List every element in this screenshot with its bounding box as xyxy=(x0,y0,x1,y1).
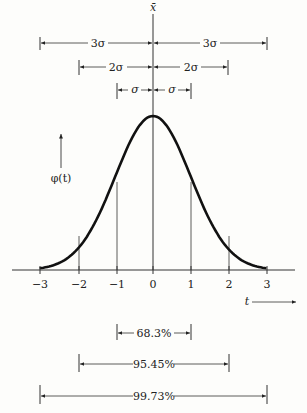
normal-distribution-figure: x̄ 3σ 3σ 2σ 2σ σ σ φ(t) xyxy=(0,0,307,413)
chart-canvas: x̄ 3σ 3σ 2σ 2σ σ σ φ(t) xyxy=(0,0,307,413)
svg-text:2σ: 2σ xyxy=(109,61,124,74)
svg-text:3σ: 3σ xyxy=(91,37,106,50)
svg-text:0: 0 xyxy=(150,278,157,291)
svg-text:σ: σ xyxy=(168,83,176,96)
svg-text:1: 1 xyxy=(188,278,195,291)
svg-text:−1: −1 xyxy=(109,278,125,291)
one-sigma-span: σ σ xyxy=(117,83,191,99)
svg-text:68.3%: 68.3% xyxy=(137,327,172,340)
svg-text:95.45%: 95.45% xyxy=(133,358,175,371)
svg-text:2σ: 2σ xyxy=(184,61,199,74)
svg-text:3: 3 xyxy=(264,278,271,291)
svg-text:99.73%: 99.73% xyxy=(133,390,175,403)
t-label: t xyxy=(245,295,250,308)
interval-95: 95.45% xyxy=(79,354,229,372)
svg-text:2: 2 xyxy=(226,278,233,291)
xbar-label: x̄ xyxy=(150,1,157,14)
ordinates xyxy=(79,182,229,270)
svg-text:σ: σ xyxy=(131,83,139,96)
svg-text:−3: −3 xyxy=(32,278,48,291)
interval-68: 68.3% xyxy=(117,324,191,340)
svg-text:3σ: 3σ xyxy=(203,37,218,50)
interval-99: 99.73% xyxy=(40,385,267,404)
svg-text:−2: −2 xyxy=(71,278,87,291)
phi-label: φ(t) xyxy=(51,172,72,185)
